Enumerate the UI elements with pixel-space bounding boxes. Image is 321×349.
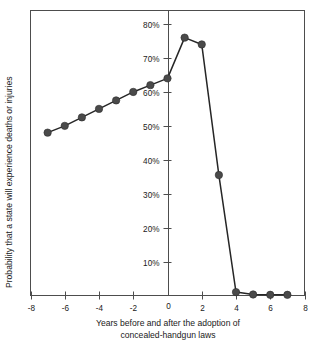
x-tick-label--8: -8 bbox=[28, 304, 36, 313]
data-point bbox=[147, 81, 154, 88]
data-point bbox=[164, 75, 171, 82]
data-point bbox=[61, 122, 68, 129]
y-tick-label-30%: 30% bbox=[143, 191, 159, 200]
x-axis-title-line2: concealed-handgun laws bbox=[120, 330, 215, 340]
data-point bbox=[112, 97, 119, 104]
x-tick-label--6: -6 bbox=[62, 304, 70, 313]
data-point bbox=[130, 88, 137, 95]
chart-canvas: 10%20%30%40%50%60%70%80% -8-6-4-202468 P… bbox=[0, 0, 321, 349]
data-point bbox=[249, 291, 256, 298]
x-tick-label-6: 6 bbox=[268, 304, 273, 313]
data-point bbox=[215, 171, 222, 178]
chart-figure: 10%20%30%40%50%60%70%80% -8-6-4-202468 P… bbox=[0, 0, 321, 349]
plot-frame bbox=[31, 11, 305, 296]
y-axis-ticks bbox=[164, 25, 172, 263]
data-point-markers bbox=[44, 34, 291, 299]
y-tick-label-70%: 70% bbox=[143, 55, 159, 64]
data-point bbox=[267, 291, 274, 298]
y-tick-label-80%: 80% bbox=[143, 21, 159, 30]
y-axis-tick-labels: 10%20%30%40%50%60%70%80% bbox=[143, 21, 159, 268]
x-tick-label-0: 0 bbox=[166, 302, 171, 311]
data-point bbox=[78, 114, 85, 121]
x-axis-tick-labels: -8-6-4-202468 bbox=[28, 302, 308, 313]
data-point bbox=[198, 41, 205, 48]
data-point bbox=[284, 291, 291, 298]
x-tick-label--2: -2 bbox=[130, 304, 138, 313]
x-tick-label--4: -4 bbox=[96, 304, 104, 313]
data-point bbox=[181, 34, 188, 41]
data-point bbox=[95, 105, 102, 112]
y-tick-label-60%: 60% bbox=[143, 89, 159, 98]
data-point bbox=[232, 288, 239, 295]
y-tick-label-50%: 50% bbox=[143, 123, 159, 132]
x-tick-label-4: 4 bbox=[234, 304, 239, 313]
x-axis-title-line1: Years before and after the adoption of bbox=[96, 318, 241, 328]
y-tick-label-10%: 10% bbox=[143, 259, 159, 268]
y-axis-title: Probability that a state will experience… bbox=[4, 76, 14, 288]
y-tick-label-40%: 40% bbox=[143, 157, 159, 166]
data-point bbox=[44, 129, 51, 136]
x-tick-label-8: 8 bbox=[303, 304, 308, 313]
x-tick-label-2: 2 bbox=[200, 304, 205, 313]
y-tick-label-20%: 20% bbox=[143, 225, 159, 234]
